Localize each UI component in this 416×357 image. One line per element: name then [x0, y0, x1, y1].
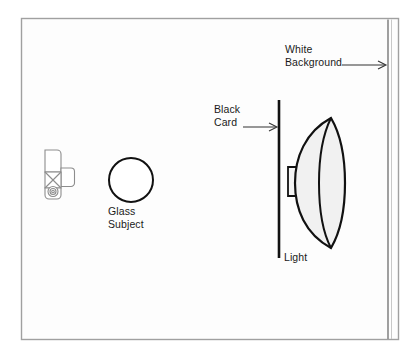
lighting-diagram: White Background Black Card Glass Subjec…	[0, 0, 416, 357]
camera-lens-barrel	[61, 168, 75, 187]
camera-top-body	[45, 150, 61, 172]
label-white-background: White Background	[285, 43, 342, 68]
camera-dial-inner	[52, 190, 55, 193]
label-black-card: Black Card	[214, 103, 240, 128]
glass-subject-circle	[109, 158, 153, 202]
label-light: Light	[284, 251, 307, 264]
label-glass-subject: Glass Subject	[108, 205, 144, 230]
diagram-canvas	[0, 0, 416, 357]
